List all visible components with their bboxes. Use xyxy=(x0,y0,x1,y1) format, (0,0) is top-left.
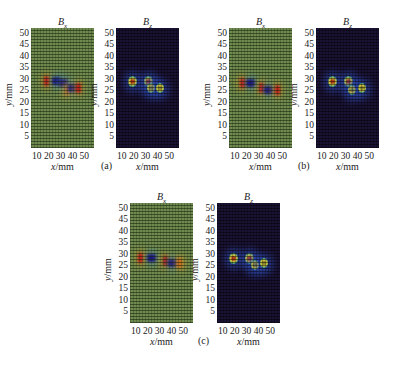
y-tick-label: 15 xyxy=(305,108,315,118)
y-label-unit: /mm xyxy=(3,83,14,101)
subfigure-caption: (c) xyxy=(198,335,209,346)
grid-overlay xyxy=(316,28,379,148)
grid-overlay xyxy=(217,203,280,323)
grid-overlay xyxy=(116,28,179,148)
y-label-var: y xyxy=(102,277,113,281)
y-tick-label: 5 xyxy=(309,131,314,141)
y-axis-label: y/mm xyxy=(288,83,299,106)
y-tick-label: 10 xyxy=(206,295,216,305)
x-label-unit: /mm xyxy=(253,161,271,172)
y-tick-label: 30 xyxy=(218,74,228,84)
y-tick-label: 45 xyxy=(105,39,115,49)
y-tick-label: 45 xyxy=(20,39,30,49)
x-axis-label: x/mm xyxy=(51,161,74,172)
y-axis-label: y/mm xyxy=(88,83,99,106)
y-tick-label: 45 xyxy=(305,39,315,49)
y-tick-label: 20 xyxy=(119,272,129,282)
y-tick-label: 50 xyxy=(119,203,129,213)
y-axis-ticks: 5045403530252015105 xyxy=(199,203,215,323)
y-label-var: y xyxy=(88,102,99,106)
y-label-unit: /mm xyxy=(288,83,299,101)
y-tick-label: 15 xyxy=(206,283,216,293)
x-label-unit: /mm xyxy=(340,161,358,172)
y-tick-label: 5 xyxy=(222,131,227,141)
bz-heatmap xyxy=(217,203,280,323)
y-tick-label: 25 xyxy=(105,85,115,95)
y-label-unit: /mm xyxy=(88,83,99,101)
y-tick-label: 25 xyxy=(218,85,228,95)
y-axis-ticks: 5045403530252015105 xyxy=(298,28,314,148)
x-label-unit: /mm xyxy=(241,336,259,347)
y-tick-label: 30 xyxy=(206,249,216,259)
y-tick-label: 35 xyxy=(305,62,315,72)
y-tick-label: 35 xyxy=(20,62,30,72)
x-axis-label: x/mm xyxy=(237,336,260,347)
y-tick-label: 25 xyxy=(305,85,315,95)
y-tick-label: 25 xyxy=(206,260,216,270)
grid-overlay xyxy=(130,203,193,323)
y-tick-label: 15 xyxy=(218,108,228,118)
y-tick-label: 35 xyxy=(206,237,216,247)
bx-heatmap xyxy=(130,203,193,323)
y-axis-label: y/mm xyxy=(3,83,14,106)
y-tick-label: 5 xyxy=(210,306,215,316)
y-axis-ticks: 5045403530252015105 xyxy=(112,203,128,323)
x-label-unit: /mm xyxy=(140,161,158,172)
y-tick-label: 35 xyxy=(218,62,228,72)
y-axis-ticks: 5045403530252015105 xyxy=(98,28,114,148)
bz-heatmap xyxy=(316,28,379,148)
y-tick-label: 20 xyxy=(305,97,315,107)
y-tick-label: 30 xyxy=(305,74,315,84)
y-label-var: y xyxy=(288,102,299,106)
y-tick-label: 5 xyxy=(24,131,29,141)
subfigure-caption: (a) xyxy=(101,160,112,171)
y-tick-label: 5 xyxy=(123,306,128,316)
y-tick-label: 50 xyxy=(105,28,115,38)
y-label-var: y xyxy=(189,277,200,281)
y-tick-label: 50 xyxy=(206,203,216,213)
y-tick-label: 35 xyxy=(105,62,115,72)
y-tick-label: 45 xyxy=(206,214,216,224)
y-tick-label: 30 xyxy=(119,249,129,259)
y-tick-label: 30 xyxy=(20,74,30,84)
y-tick-label: 15 xyxy=(20,108,30,118)
x-axis-ticks: 10 20 30 40 50 xyxy=(131,326,188,336)
y-tick-label: 40 xyxy=(119,226,129,236)
bx-heatmap xyxy=(229,28,292,148)
y-axis-ticks: 5045403530252015105 xyxy=(13,28,29,148)
y-tick-label: 40 xyxy=(20,51,30,61)
y-tick-label: 50 xyxy=(305,28,315,38)
y-tick-label: 15 xyxy=(119,283,129,293)
x-label-unit: /mm xyxy=(154,336,172,347)
y-tick-label: 45 xyxy=(119,214,129,224)
y-axis-ticks: 5045403530252015105 xyxy=(211,28,227,148)
y-tick-label: 50 xyxy=(20,28,30,38)
x-axis-label: x/mm xyxy=(336,161,359,172)
y-tick-label: 20 xyxy=(105,97,115,107)
x-axis-ticks: 10 20 30 40 50 xyxy=(317,151,374,161)
y-label-var: y xyxy=(201,102,212,106)
y-label-unit: /mm xyxy=(201,83,212,101)
y-tick-label: 25 xyxy=(119,260,129,270)
y-axis-label: y/mm xyxy=(102,258,113,281)
y-label-unit: /mm xyxy=(102,258,113,276)
y-tick-label: 40 xyxy=(105,51,115,61)
x-axis-label: x/mm xyxy=(249,161,272,172)
y-tick-label: 20 xyxy=(206,272,216,282)
x-label-unit: /mm xyxy=(55,161,73,172)
y-axis-label: y/mm xyxy=(201,83,212,106)
y-tick-label: 35 xyxy=(119,237,129,247)
y-tick-label: 20 xyxy=(218,97,228,107)
x-axis-ticks: 10 20 30 40 50 xyxy=(218,326,275,336)
y-tick-label: 40 xyxy=(206,226,216,236)
x-axis-ticks: 10 20 30 40 50 xyxy=(230,151,287,161)
grid-overlay xyxy=(31,28,94,148)
y-tick-label: 10 xyxy=(119,295,129,305)
y-tick-label: 30 xyxy=(105,74,115,84)
y-tick-label: 10 xyxy=(218,120,228,130)
y-tick-label: 25 xyxy=(20,85,30,95)
y-tick-label: 10 xyxy=(305,120,315,130)
grid-overlay xyxy=(229,28,292,148)
x-axis-label: x/mm xyxy=(136,161,159,172)
x-axis-ticks: 10 20 30 40 50 xyxy=(32,151,89,161)
